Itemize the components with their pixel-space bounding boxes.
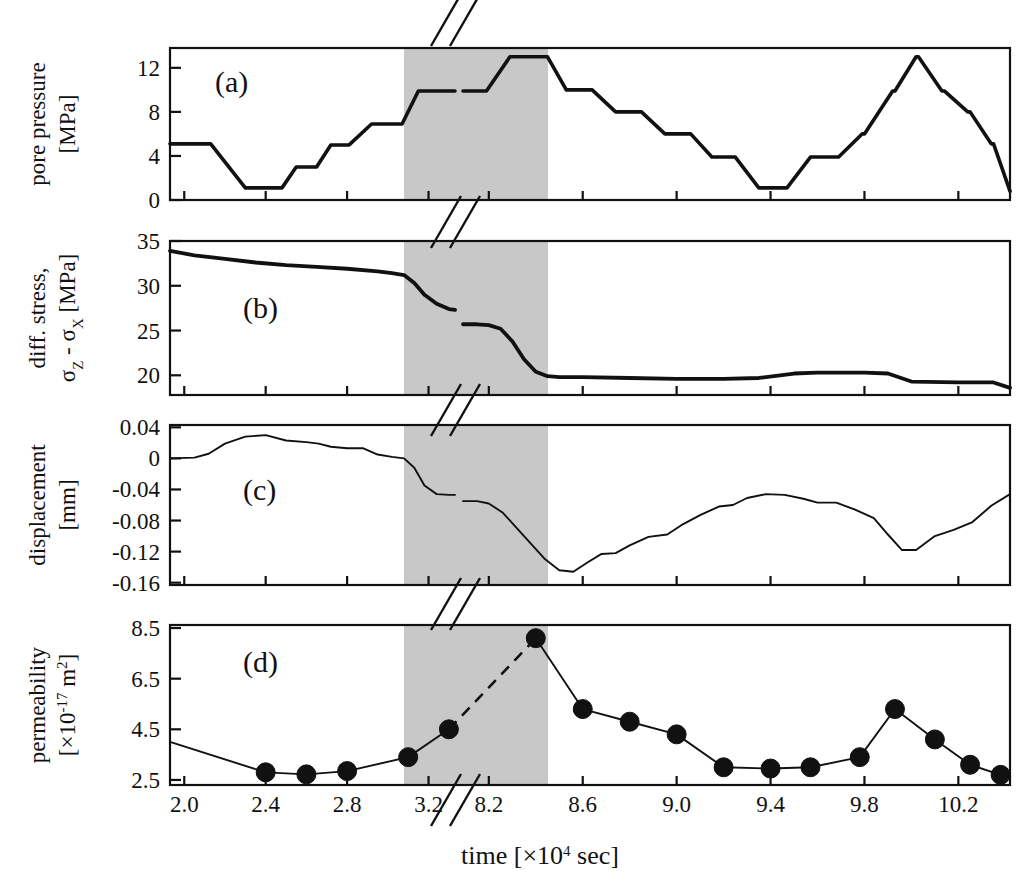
y-tick-label: 4	[149, 144, 161, 169]
permeability-marker	[620, 712, 639, 731]
x-tick-label: 8.6	[568, 792, 597, 817]
permeability-marker	[338, 762, 357, 781]
y-tick-label: 30	[137, 274, 160, 299]
y-tick-label: 8	[149, 100, 161, 125]
panel-tag-a: (a)	[215, 65, 248, 99]
permeability-marker	[297, 765, 316, 784]
ylabel-permeability-line1: permeability	[25, 646, 50, 763]
ylabel-pore-pressure-line2: [MPa]	[55, 95, 80, 154]
permeability-marker	[399, 748, 418, 767]
shaded-failure-band	[404, 48, 548, 200]
permeability-marker	[526, 629, 545, 648]
multi-panel-chart: 04812202530350.040-0.04-0.08-0.12-0.162.…	[0, 0, 1034, 893]
ylabel-diff-stress-line1: diff. stress,	[25, 267, 50, 368]
figure-root: 04812202530350.040-0.04-0.08-0.12-0.162.…	[0, 0, 1034, 893]
panel-tag-c: (c)	[243, 473, 276, 507]
x-axis-title: time [×104 sec]	[461, 841, 619, 870]
shaded-failure-band	[404, 625, 548, 785]
panel-tag-b: (b)	[243, 291, 278, 325]
permeability-marker	[961, 755, 980, 774]
shaded-failure-band	[404, 241, 548, 395]
x-tick-label: 10.2	[938, 792, 978, 817]
permeability-marker	[667, 725, 686, 744]
x-tick-label: 2.8	[333, 792, 362, 817]
y-tick-label: -0.08	[112, 509, 160, 534]
x-tick-label: 9.8	[850, 792, 879, 817]
panel-frame-0	[170, 48, 1010, 200]
permeability-marker	[714, 758, 733, 777]
y-tick-label: 25	[137, 319, 160, 344]
permeability-marker	[256, 763, 275, 782]
ylabel-displacement: displacement[mm]	[25, 444, 80, 566]
y-tick-label: 8.5	[131, 616, 160, 641]
permeability-marker	[925, 730, 944, 749]
x-tick-label: 2.4	[251, 792, 280, 817]
permeability-marker	[991, 765, 1010, 784]
y-tick-label: 4.5	[131, 717, 160, 742]
axis-break-slash	[431, 0, 461, 46]
permeability-marker	[573, 700, 592, 719]
shaded-failure-band	[404, 425, 548, 585]
y-tick-label: -0.16	[112, 571, 160, 596]
x-tick-label: 9.4	[756, 792, 785, 817]
ylabel-diff-stress-line2: σZ - σX [MPa]	[55, 254, 86, 383]
x-tick-label: 2.0	[170, 792, 199, 817]
y-tick-label: 12	[137, 56, 160, 81]
x-tick-label: 9.0	[662, 792, 691, 817]
permeability-line-right	[536, 638, 1001, 775]
permeability-marker	[761, 759, 780, 778]
permeability-marker	[439, 720, 458, 739]
ylabel-pore-pressure: pore pressure[MPa]	[25, 62, 80, 185]
y-tick-label: -0.12	[112, 540, 160, 565]
y-tick-label: -0.04	[112, 477, 160, 502]
y-tick-label: 0	[149, 188, 161, 213]
y-tick-label: 0	[149, 446, 161, 471]
ylabel-permeability: permeability[×10-17 m2]	[25, 646, 80, 763]
y-tick-label: 35	[137, 229, 160, 254]
ylabel-diff-stress: diff. stress,σZ - σX [MPa]	[25, 254, 86, 383]
permeability-marker	[850, 748, 869, 767]
ylabel-displacement-line2: [mm]	[55, 479, 80, 530]
y-tick-label: 0.04	[120, 415, 161, 440]
panel-tag-d: (d)	[243, 645, 278, 679]
axis-break-marker	[431, 0, 480, 46]
ylabel-displacement-line1: displacement	[25, 444, 50, 566]
ylabel-permeability-line2: [×10-17 m2]	[54, 654, 80, 756]
y-tick-label: 20	[137, 363, 160, 388]
permeability-marker	[885, 700, 904, 719]
permeability-marker	[801, 758, 820, 777]
x-tick-label: 3.2	[414, 792, 443, 817]
x-tick-label: 8.2	[474, 792, 503, 817]
y-tick-label: 2.5	[131, 768, 160, 793]
y-tick-label: 6.5	[131, 667, 160, 692]
ylabel-pore-pressure-line1: pore pressure	[25, 62, 50, 185]
